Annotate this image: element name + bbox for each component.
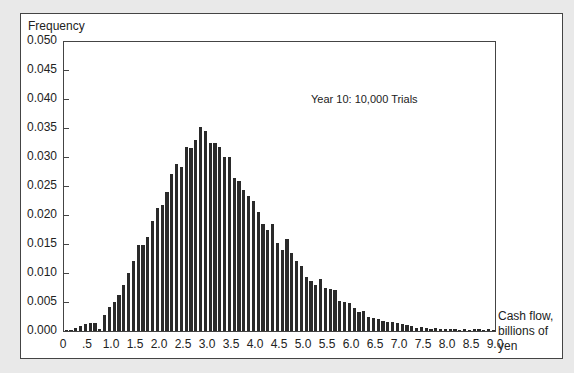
histogram-bar bbox=[161, 205, 164, 331]
histogram-bar bbox=[319, 279, 322, 331]
histogram-bar bbox=[492, 330, 495, 331]
y-tick-label: 0.050 bbox=[12, 33, 57, 47]
y-tick-mark bbox=[63, 273, 69, 274]
y-tick-label: 0.020 bbox=[12, 207, 57, 221]
histogram-bar bbox=[271, 224, 274, 331]
histogram-bar bbox=[209, 143, 212, 332]
histogram-bar bbox=[348, 303, 351, 331]
y-tick-label: 0.035 bbox=[12, 120, 57, 134]
histogram-bar bbox=[146, 237, 149, 331]
x-tick-label: 9.0 bbox=[480, 337, 510, 351]
y-tick-mark bbox=[63, 99, 69, 100]
y-tick-mark bbox=[63, 215, 69, 216]
histogram-bar bbox=[228, 157, 231, 331]
histogram-bar bbox=[444, 329, 447, 331]
histogram-bar bbox=[252, 201, 255, 332]
histogram-bar bbox=[405, 325, 408, 331]
histogram-bar bbox=[199, 127, 202, 331]
histogram-bar bbox=[482, 330, 485, 331]
y-tick-mark bbox=[63, 186, 69, 187]
histogram-bar bbox=[372, 318, 375, 331]
histogram-bar bbox=[377, 319, 380, 331]
histogram-bar bbox=[89, 323, 92, 331]
histogram-bar bbox=[247, 196, 250, 331]
y-tick-label: 0.025 bbox=[12, 178, 57, 192]
histogram-bar bbox=[223, 157, 226, 331]
histogram-bar bbox=[189, 148, 192, 331]
histogram-bar bbox=[242, 190, 245, 331]
histogram-bar bbox=[237, 181, 240, 331]
histogram-bar bbox=[69, 330, 72, 331]
y-tick-mark bbox=[63, 157, 69, 158]
histogram-bar bbox=[266, 230, 269, 332]
histogram-bar bbox=[415, 328, 418, 331]
histogram-bar bbox=[233, 178, 236, 331]
histogram-bar bbox=[353, 308, 356, 331]
histogram-bar bbox=[204, 131, 207, 331]
histogram-bar bbox=[170, 174, 173, 331]
histogram-bar bbox=[257, 212, 260, 331]
y-tick-label: 0.030 bbox=[12, 149, 57, 163]
histogram-bar bbox=[84, 324, 87, 331]
histogram-bar bbox=[458, 330, 461, 331]
histogram-bar bbox=[290, 253, 293, 331]
histogram-bar bbox=[362, 311, 365, 331]
histogram-bar bbox=[180, 167, 183, 331]
histogram-bar bbox=[434, 328, 437, 331]
histogram-bar bbox=[295, 261, 298, 331]
y-tick-mark bbox=[63, 331, 69, 332]
histogram-bar bbox=[156, 208, 159, 331]
histogram-bar bbox=[333, 290, 336, 331]
histogram-bar bbox=[151, 221, 154, 331]
histogram-bar bbox=[261, 224, 264, 331]
histogram-bar bbox=[338, 301, 341, 331]
histogram-bar bbox=[396, 323, 399, 331]
histogram-bar bbox=[468, 330, 471, 331]
y-tick-label: 0.010 bbox=[12, 265, 57, 279]
histogram-bar bbox=[93, 323, 96, 331]
histogram-bar bbox=[410, 326, 413, 331]
histogram-bar bbox=[324, 288, 327, 332]
histogram-bar bbox=[74, 328, 77, 331]
y-tick-mark bbox=[63, 128, 69, 129]
histogram-bar bbox=[194, 140, 197, 331]
histogram-bar bbox=[213, 143, 216, 332]
y-tick-mark bbox=[63, 41, 69, 42]
histogram-bar bbox=[98, 329, 101, 331]
histogram-bar bbox=[343, 302, 346, 331]
histogram-bar bbox=[108, 307, 111, 331]
histogram-bar bbox=[367, 317, 370, 332]
histogram-bar bbox=[300, 266, 303, 331]
histogram-bar bbox=[165, 192, 168, 331]
histogram-bar bbox=[386, 322, 389, 331]
x-axis-title-line1: Cash flow, bbox=[498, 309, 553, 324]
histogram-bar bbox=[449, 329, 452, 331]
histogram-bar bbox=[175, 164, 178, 331]
histogram-bar bbox=[357, 312, 360, 331]
histogram-bar bbox=[477, 329, 480, 331]
histogram-bar bbox=[285, 239, 288, 331]
histogram-bar bbox=[117, 295, 120, 331]
histogram-bar bbox=[487, 329, 490, 331]
histogram-bar bbox=[425, 328, 428, 331]
histogram-bar bbox=[314, 285, 317, 331]
histogram-bar bbox=[218, 147, 221, 331]
histogram-bar bbox=[185, 147, 188, 331]
plot-area bbox=[63, 41, 496, 332]
y-tick-label: 0.005 bbox=[12, 294, 57, 308]
histogram-bar bbox=[329, 289, 332, 331]
chart-annotation: Year 10: 10,000 Trials bbox=[311, 93, 418, 105]
histogram-bar bbox=[113, 302, 116, 331]
histogram-bar bbox=[463, 329, 466, 331]
y-tick-label: 0.000 bbox=[12, 323, 57, 337]
y-tick-label: 0.040 bbox=[12, 91, 57, 105]
histogram-bar bbox=[276, 243, 279, 331]
histogram-bar bbox=[305, 277, 308, 331]
histogram-bar bbox=[79, 326, 82, 331]
histogram-bar bbox=[281, 250, 284, 331]
histogram-bar bbox=[453, 329, 456, 331]
histogram-bar bbox=[381, 321, 384, 331]
histogram-bar bbox=[473, 329, 476, 331]
y-tick-mark bbox=[63, 302, 69, 303]
histogram-bar bbox=[429, 329, 432, 331]
